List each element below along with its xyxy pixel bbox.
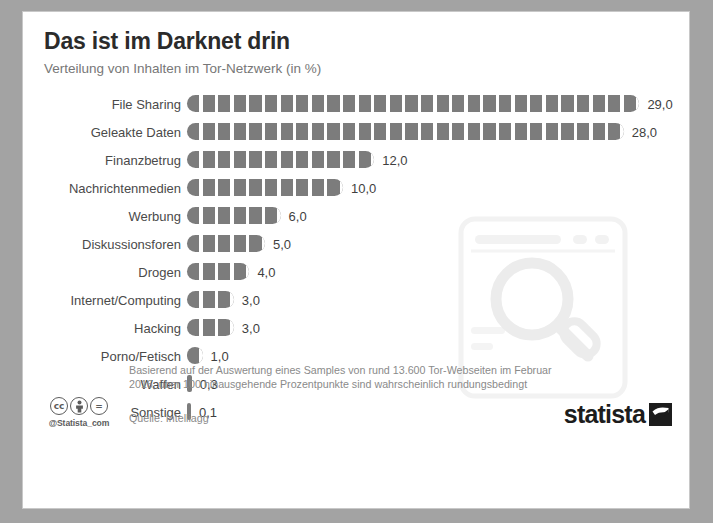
bar-container [187, 179, 343, 196]
category-label: Werbung [23, 208, 181, 225]
cc-nd-equals-icon: = [90, 397, 108, 415]
bar-container [187, 207, 281, 224]
chart-row: Drogen4,0 [23, 262, 690, 284]
bar [187, 263, 249, 280]
cc-icons: cc = [36, 397, 122, 415]
bar-value-label: 3,0 [242, 320, 260, 337]
bar-segment-ticks [187, 179, 343, 196]
chart-row: Nachrichtenmedien10,0 [23, 178, 690, 200]
bar [187, 123, 624, 140]
bar-segment-ticks [187, 207, 281, 224]
bar-segment-ticks [187, 319, 234, 336]
bar-segment-ticks [187, 291, 234, 308]
bar-value-label: 28,0 [632, 124, 657, 141]
bar-container [187, 291, 234, 308]
bar-container [187, 151, 374, 168]
bar [187, 95, 639, 112]
bar-segment-ticks [187, 235, 265, 252]
chart-row: Diskussionsforen5,0 [23, 234, 690, 256]
source-text: Quelle: Intelliagg [129, 411, 209, 425]
infographic-page: Das ist im Darknet drin Verteilung von I… [0, 0, 713, 523]
bar-segment-ticks [187, 263, 249, 280]
chart-row: Internet/Computing3,0 [23, 290, 690, 312]
bar [187, 291, 234, 308]
statista-mark-icon [649, 403, 672, 426]
bar [187, 235, 265, 252]
bar-segment-ticks [187, 151, 374, 168]
bar [187, 207, 281, 224]
bar-value-label: 4,0 [257, 264, 275, 281]
category-label: Finanzbetrug [23, 152, 181, 169]
bar-segment-ticks [187, 347, 203, 364]
bar-value-label: 10,0 [351, 180, 376, 197]
bar [187, 179, 343, 196]
bar-value-label: 3,0 [242, 292, 260, 309]
category-label: Drogen [23, 264, 181, 281]
bar [187, 347, 203, 364]
footnote-text: Basierend auf der Auswertung eines Sampl… [129, 363, 559, 391]
chart-row: File Sharing29,0 [23, 94, 690, 116]
category-label: Internet/Computing [23, 292, 181, 309]
page-title: Das ist im Darknet drin [44, 29, 321, 54]
chart-row: Werbung6,0 [23, 206, 690, 228]
bar-segment-ticks [187, 95, 639, 112]
bar [187, 151, 374, 168]
category-label: Nachrichtenmedien [23, 180, 181, 197]
cc-icon: cc [50, 397, 68, 415]
bar-container [187, 235, 265, 252]
bar [187, 319, 234, 336]
category-label: Hacking [23, 320, 181, 337]
bar-container [187, 95, 639, 112]
category-label: Geleakte Daten [23, 124, 181, 141]
header: Das ist im Darknet drin Verteilung von I… [44, 29, 321, 77]
creative-commons-block: cc = @Statista_com [36, 397, 122, 428]
chart-row: Geleakte Daten28,0 [23, 122, 690, 144]
bar-container [187, 319, 234, 336]
chart-row: Finanzbetrug12,0 [23, 150, 690, 172]
statista-wordmark: statista [564, 402, 645, 427]
category-label: Diskussionsforen [23, 236, 181, 253]
bar-container [187, 347, 203, 364]
infographic-card: Das ist im Darknet drin Verteilung von I… [22, 11, 690, 509]
category-label: File Sharing [23, 96, 181, 113]
bar-container [187, 263, 249, 280]
bar-value-label: 5,0 [273, 236, 291, 253]
statista-handle: @Statista_com [36, 418, 122, 428]
bar-value-label: 6,0 [289, 208, 307, 225]
bar-container [187, 123, 624, 140]
cc-by-person-icon [70, 397, 88, 415]
bar-value-label: 12,0 [382, 152, 407, 169]
page-subtitle: Verteilung von Inhalten im Tor-Netzwerk … [44, 61, 321, 77]
bar-segment-ticks [187, 123, 624, 140]
bar-value-label: 29,0 [647, 96, 672, 113]
chart-row: Hacking3,0 [23, 318, 690, 340]
statista-logo: statista [564, 402, 672, 427]
